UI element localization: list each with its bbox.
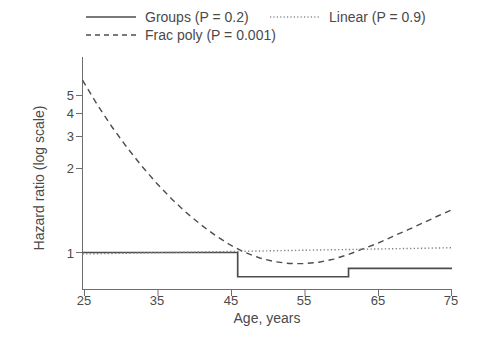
x-axis-ticks — [85, 290, 452, 296]
hazard-ratio-chart: Groups (P = 0.2) Linear (P = 0.9) Frac p… — [0, 0, 483, 340]
series-line-frac — [83, 80, 453, 263]
series-line-groups — [83, 253, 453, 277]
plot-area — [0, 0, 483, 340]
y-axis-ticks — [76, 96, 83, 253]
data-series-layer — [83, 80, 453, 277]
